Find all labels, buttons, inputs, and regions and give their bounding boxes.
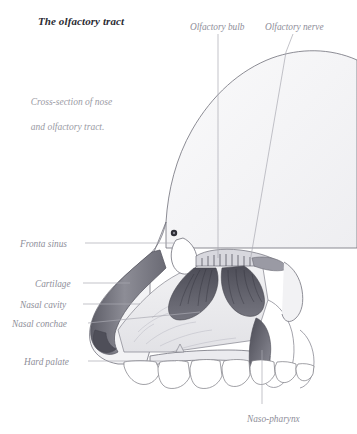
- cranial-vault: [166, 51, 357, 248]
- label-olfactory-bulb: Olfactory bulb: [190, 22, 244, 32]
- figure-caption: Cross-section of nose and olfactory trac…: [26, 83, 112, 134]
- label-cartilage: Cartilage: [35, 279, 71, 289]
- foramen-dot: [171, 230, 177, 236]
- label-frontal-sinus: Fronta sinus: [20, 239, 67, 249]
- label-naso-pharynx: Naso-pharynx: [247, 414, 300, 424]
- label-nasal-cavity: Nasal cavity: [20, 300, 66, 310]
- label-olfactory-nerve: Olfactory nerve: [265, 22, 324, 32]
- caption-line-1: Cross-section of nose: [31, 97, 112, 107]
- label-nasal-conchae: Nasal conchae: [12, 319, 67, 329]
- olfactory-tract-illustration: [0, 0, 357, 434]
- page-title: The olfactory tract: [38, 14, 124, 29]
- label-hard-palate: Hard palate: [24, 357, 69, 367]
- caption-line-2: and olfactory tract.: [31, 122, 105, 132]
- tooth-row: [124, 360, 314, 389]
